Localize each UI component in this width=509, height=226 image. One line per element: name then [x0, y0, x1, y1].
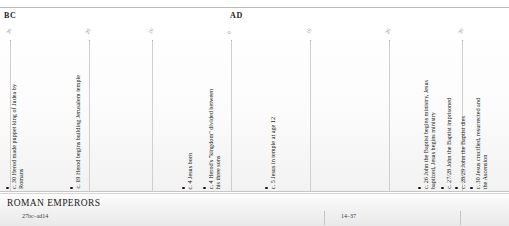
era-label-ad: AD [230, 11, 243, 20]
gridline [310, 41, 311, 192]
top-divider [0, 7, 509, 8]
event-label: c. 30 Herod made puppet king of Judea by… [10, 84, 25, 189]
axis-tick-label: 0 [226, 30, 233, 35]
event-bullet-icon [6, 187, 9, 190]
event-label: c. 19 Herod begins building Jerusalem te… [74, 75, 81, 189]
timeline-event[interactable]: c. 26 John the Baptist begins ministry, … [418, 43, 437, 189]
axis-tick-label: 30 [5, 27, 13, 35]
reign-label[interactable]: 14–37 [341, 213, 356, 219]
event-label: c. 4 Herod's "kingdom" divided between h… [207, 89, 222, 189]
roman-emperors-band: ROMAN EMPERORS 27bc–ad1414–37 [0, 193, 509, 226]
axis-tick-label: 30 [457, 27, 465, 35]
axis-tick-label: 10 [147, 27, 155, 35]
event-label: c. 5 Jesus in temple at age 12 [269, 117, 276, 189]
timeline-event[interactable]: c. 30 Jesus crucified, resurrected and t… [470, 43, 489, 189]
event-bullet-icon [441, 187, 444, 190]
timeline-event[interactable]: c. 30 Herod made puppet king of Judea by… [6, 43, 25, 189]
timeline-event[interactable]: c. 5 Jesus in temple at age 12 [265, 43, 276, 189]
reign-separator [460, 211, 461, 225]
gridline [152, 41, 153, 192]
event-label: c. 27/28 John the Baptist imprisoned [445, 98, 452, 189]
reign-separator [324, 211, 325, 225]
event-label: c. 26 John the Baptist begins ministry, … [422, 80, 437, 189]
timeline-plot: 3020100102030 c. 30 Herod made puppet ki… [0, 27, 509, 192]
axis-tick-label: 10 [305, 27, 313, 35]
gridline [89, 41, 90, 192]
event-bullet-icon [203, 187, 206, 190]
gridline [389, 41, 390, 192]
gridline [231, 41, 232, 192]
era-label-bc: BC [4, 11, 16, 20]
event-label: c. 4 Jesus born [186, 153, 193, 189]
timeline-event[interactable]: c. 27/28 John the Baptist imprisoned [441, 43, 452, 189]
band-title: ROMAN EMPERORS [7, 198, 101, 208]
axis-tick-label: 20 [384, 27, 392, 35]
axis-tick-label: 20 [84, 27, 92, 35]
event-bullet-icon [182, 187, 185, 190]
timeline-event[interactable]: c. 28/29 John the Baptist dies [455, 43, 466, 189]
timeline-event[interactable]: c. 4 Jesus born [182, 43, 193, 189]
event-bullet-icon [455, 187, 458, 190]
event-label: c. 30 Jesus crucified, resurrected and t… [474, 98, 489, 189]
reign-label[interactable]: 27bc–ad14 [22, 213, 48, 219]
event-bullet-icon [265, 187, 268, 190]
timeline-event[interactable]: c. 19 Herod begins building Jerusalem te… [70, 43, 81, 189]
event-bullet-icon [418, 187, 421, 190]
event-label: c. 28/29 John the Baptist dies [459, 116, 466, 189]
timeline-event[interactable]: c. 4 Herod's "kingdom" divided between h… [203, 43, 222, 189]
event-bullet-icon [470, 187, 473, 190]
event-bullet-icon [70, 187, 73, 190]
